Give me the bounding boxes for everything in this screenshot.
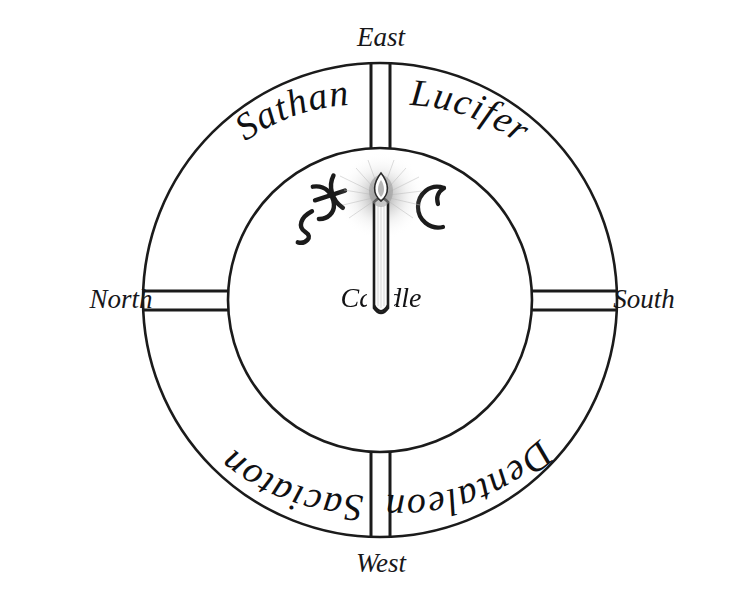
- divider-north: [144, 291, 229, 310]
- ring-label-dentaleon: Dentaleon: [384, 433, 563, 530]
- circle-diagram-canvas: Sathan Lucifer Saciaton Dentaleon East N…: [0, 0, 747, 600]
- cardinal-label-south: South: [613, 284, 675, 314]
- magic-circle-diagram: Sathan Lucifer Saciaton Dentaleon East N…: [0, 0, 747, 600]
- ring-label-lucifer-text: Lucifer: [408, 71, 539, 151]
- cardinal-label-east: East: [356, 22, 407, 52]
- divider-east: [371, 64, 390, 149]
- ring-label-sathan: Sathan: [227, 71, 351, 148]
- ring-label-dentaleon-text: Dentaleon: [384, 433, 563, 530]
- ring-label-saciaton-text: Saciaton: [211, 442, 364, 530]
- ring-label-lucifer: Lucifer: [408, 71, 539, 151]
- cardinal-label-north: North: [88, 284, 152, 314]
- ring-label-saciaton: Saciaton: [211, 442, 364, 530]
- candle-label: Candle: [341, 282, 422, 313]
- divider-south: [531, 291, 616, 310]
- ring-label-sathan-text: Sathan: [227, 71, 351, 148]
- candle-word-group: Candle: [341, 282, 422, 313]
- cardinal-label-west: West: [356, 548, 408, 578]
